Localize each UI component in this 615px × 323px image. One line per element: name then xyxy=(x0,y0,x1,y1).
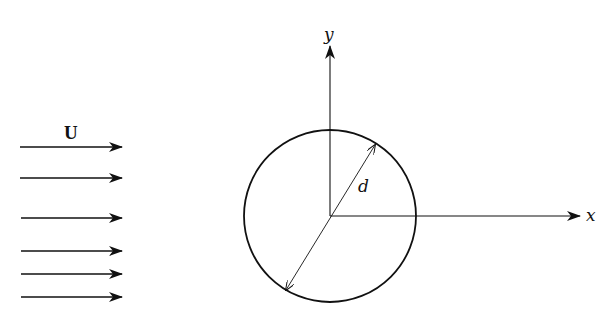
velocity-label: U xyxy=(64,122,78,143)
x-axis-label: x xyxy=(586,205,596,225)
free-stream-arrows xyxy=(20,147,122,297)
y-axis-label: y xyxy=(323,24,334,44)
diameter-label: d xyxy=(358,176,369,196)
flow-past-cylinder-diagram: U y x d xyxy=(0,0,615,323)
